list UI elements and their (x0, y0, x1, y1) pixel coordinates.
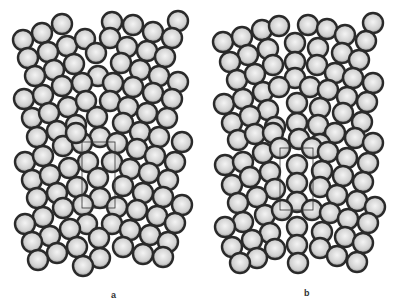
sphere (157, 108, 177, 128)
sphere (53, 198, 73, 218)
sphere (165, 213, 185, 233)
sphere (153, 247, 173, 267)
sphere (230, 253, 250, 273)
sphere (333, 166, 353, 186)
sphere (363, 73, 383, 93)
sphere (298, 15, 318, 35)
sphere (269, 77, 289, 97)
sphere (103, 73, 123, 93)
sphere (113, 237, 133, 257)
sphere (139, 163, 159, 183)
sphere (337, 148, 357, 168)
sphere (127, 200, 147, 220)
sphere (27, 127, 47, 147)
panel-a-circles (13, 11, 192, 276)
sphere (357, 92, 377, 112)
sphere (333, 103, 353, 123)
panel-b-circles (213, 13, 385, 273)
sphere (86, 43, 106, 63)
sphere-packing-figure (0, 0, 396, 307)
sphere (113, 176, 133, 196)
sphere (335, 25, 355, 45)
sphere (338, 209, 358, 229)
sphere (287, 93, 307, 113)
sphere (52, 76, 72, 96)
sphere (358, 153, 378, 173)
sphere (353, 233, 373, 253)
sphere (240, 167, 260, 187)
sphere (347, 252, 367, 272)
sphere (123, 15, 143, 35)
sphere (343, 68, 363, 88)
sphere (88, 168, 108, 188)
sphere (155, 47, 175, 67)
sphere (285, 33, 305, 53)
sphere (162, 28, 182, 48)
sphere (32, 23, 52, 43)
sphere (89, 228, 109, 248)
sphere (123, 77, 143, 97)
panel-label-b: b (304, 288, 310, 298)
sphere (25, 66, 45, 86)
sphere (73, 256, 93, 276)
sphere (215, 217, 235, 237)
sphere (72, 73, 92, 93)
sphere (14, 89, 34, 109)
sphere (153, 187, 173, 207)
sphere (133, 244, 153, 264)
sphere (213, 32, 233, 52)
sphere (73, 195, 93, 215)
sphere (143, 22, 163, 42)
panel-label-a: a (111, 290, 116, 300)
sphere (33, 146, 53, 166)
sphere (149, 127, 169, 147)
sphere (28, 250, 48, 270)
sphere (162, 89, 182, 109)
sphere (87, 107, 107, 127)
sphere (215, 155, 235, 175)
sphere (47, 243, 67, 263)
sphere (318, 142, 338, 162)
sphere (59, 158, 79, 178)
sphere (356, 31, 376, 51)
sphere (52, 14, 72, 34)
sphere (66, 123, 86, 143)
sphere (358, 213, 378, 233)
sphere (67, 237, 87, 257)
sphere (111, 53, 131, 73)
sphere (363, 133, 383, 153)
sphere (288, 253, 308, 273)
sphere (327, 246, 347, 266)
sphere (269, 16, 289, 36)
sphere (172, 132, 192, 152)
sphere (107, 133, 127, 153)
sphere (64, 54, 84, 74)
sphere (228, 193, 248, 213)
sphere (143, 83, 163, 103)
sphere (353, 172, 373, 192)
sphere (137, 103, 157, 123)
sphere (287, 173, 307, 193)
sphere (214, 94, 234, 114)
sphere (27, 188, 47, 208)
